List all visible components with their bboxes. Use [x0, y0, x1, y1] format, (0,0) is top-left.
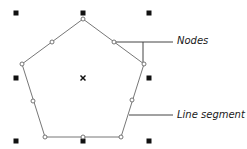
callout-lines: [114, 42, 173, 115]
diagram-canvas: [0, 0, 247, 149]
node: [50, 40, 54, 44]
selection-handle: [14, 139, 19, 144]
selection-handle: [14, 11, 19, 16]
line-segment-label: Line segment: [177, 109, 245, 121]
node: [20, 62, 24, 66]
node: [81, 135, 85, 139]
node: [43, 135, 47, 139]
node: [81, 17, 85, 21]
selection-handle: [147, 11, 152, 16]
center-x-icon: [81, 76, 86, 81]
selection-handle: [81, 11, 86, 16]
node: [31, 99, 35, 103]
selection-handle: [147, 139, 152, 144]
nodes-label: Nodes: [177, 35, 208, 47]
node: [130, 98, 134, 102]
node: [112, 40, 116, 44]
selection-handle: [14, 76, 19, 81]
selection-handle: [147, 76, 152, 81]
node: [119, 135, 123, 139]
node: [142, 62, 146, 66]
